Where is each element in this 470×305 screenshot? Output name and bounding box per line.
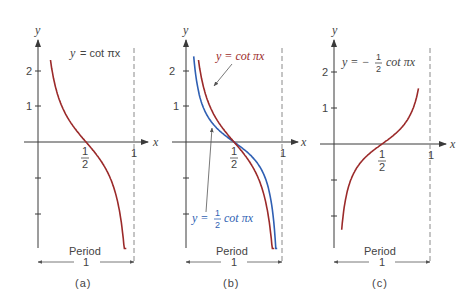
blue-frac-num: 1 <box>215 208 220 218</box>
equation-label-rhs: cot πx <box>386 55 416 69</box>
x-tick-1: 1 <box>280 147 286 159</box>
x-tick-1: 1 <box>428 149 434 161</box>
figure: 2 1 y x 1 2 1 y = cot πx Period 1 (a) 2 … <box>0 0 470 305</box>
x-tick-1: 1 <box>131 147 137 159</box>
panel-a: 2 1 y x 1 2 1 y = cot πx Period 1 (a) <box>24 23 159 289</box>
caption-b: (b) <box>223 277 239 289</box>
x-axis-label: x <box>300 135 307 149</box>
x-tick-half-num: 1 <box>231 145 237 157</box>
blue-frac-den: 2 <box>215 220 220 230</box>
y-tick-1: 1 <box>26 100 32 112</box>
panel-b: 2 1 y x 1 2 1 y = cot πx y = 1 2 cot πx … <box>169 23 307 289</box>
cot-curve <box>51 60 127 249</box>
blue-equation-lhs: y = <box>191 211 208 225</box>
caption-c: (c) <box>372 277 388 289</box>
equation-label-rhs: = cot πx <box>80 47 121 59</box>
panel-c: 2 1 y x 1 2 1 y = − 1 2 cot πx Period 1 … <box>320 23 456 289</box>
y-tick-2: 2 <box>169 65 175 77</box>
y-tick-2: 2 <box>26 65 32 77</box>
y-axis-label: y <box>34 23 41 37</box>
x-axis-label: x <box>152 135 159 149</box>
period-value: 1 <box>231 256 237 268</box>
x-tick-half-num: 1 <box>379 148 385 160</box>
period-value: 1 <box>379 256 385 268</box>
y-tick-1: 1 <box>173 100 179 112</box>
y-tick-1: 1 <box>322 102 328 114</box>
y-axis-label: y <box>331 23 338 37</box>
y-axis-label: y <box>182 23 189 37</box>
caption-a: (a) <box>75 277 91 289</box>
x-axis-label: x <box>449 137 456 151</box>
y-tick-2: 2 <box>322 66 328 78</box>
frac-den: 2 <box>376 64 381 74</box>
red-equation-label: y = cot πx <box>215 49 265 63</box>
x-tick-half-num: 1 <box>82 145 88 157</box>
equation-label-lhs: y = − <box>341 55 370 69</box>
period-value: 1 <box>83 256 89 268</box>
x-tick-half-den: 2 <box>379 161 385 173</box>
red-leader-arrow <box>214 64 232 86</box>
equation-label-lhs: y <box>69 46 76 60</box>
frac-num: 1 <box>376 52 381 62</box>
x-tick-half-den: 2 <box>231 158 237 170</box>
x-tick-half-den: 2 <box>82 158 88 170</box>
blue-leader-arrow <box>206 128 212 212</box>
blue-equation-rhs: cot πx <box>224 211 254 225</box>
